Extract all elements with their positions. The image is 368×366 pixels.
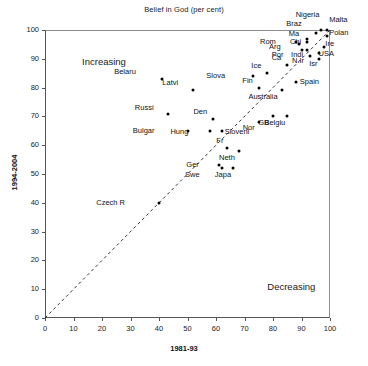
data-point — [280, 89, 283, 92]
data-point — [232, 167, 235, 170]
y-tick-label: 90 — [15, 54, 39, 63]
data-point — [266, 72, 269, 75]
point-label: Ire — [325, 40, 334, 48]
point-label: Malta — [329, 16, 347, 24]
data-point — [226, 147, 229, 150]
y-tick-label: 30 — [15, 227, 39, 236]
data-point — [192, 89, 195, 92]
point-label: Australia — [248, 93, 277, 101]
y-tick-mark — [42, 203, 45, 204]
point-label: Fin — [242, 77, 252, 85]
point-label: Polan — [329, 29, 348, 37]
point-label: Braz — [286, 20, 301, 28]
y-tick-label: 40 — [15, 198, 39, 207]
y-tick-mark — [42, 318, 45, 319]
point-label: N.Ir — [292, 57, 304, 65]
x-tick-label: 80 — [258, 324, 288, 333]
x-tick-mark — [330, 318, 331, 321]
point-label: Nigeria — [296, 11, 320, 19]
y-tick-label: 50 — [15, 169, 39, 178]
y-tick-mark — [42, 232, 45, 233]
point-label: Den — [193, 108, 207, 116]
y-tick-label: 70 — [15, 111, 39, 120]
point-label: Nor — [243, 124, 255, 132]
point-label: Latvi — [162, 79, 178, 87]
data-point — [309, 54, 312, 57]
x-tick-label: 40 — [144, 324, 174, 333]
y-tick-mark — [42, 59, 45, 60]
y-tick-mark — [42, 30, 45, 31]
x-tick-mark — [45, 318, 46, 321]
x-tick-label: 70 — [230, 324, 260, 333]
x-tick-mark — [131, 318, 132, 321]
point-label: Isr — [309, 60, 317, 68]
x-tick-label: 0 — [30, 324, 60, 333]
x-tick-label: 50 — [173, 324, 203, 333]
point-label: Ger — [186, 161, 199, 169]
x-tick-mark — [159, 318, 160, 321]
x-tick-mark — [273, 318, 274, 321]
y-tick-mark — [42, 174, 45, 175]
y-tick-label: 0 — [15, 313, 39, 322]
data-point — [294, 80, 297, 83]
scatter-chart: Belief in God (per cent) BelaruLatviRuss… — [0, 0, 368, 366]
point-label: Russi — [135, 104, 154, 112]
point-label: Slova — [206, 72, 225, 80]
point-label: Ice — [251, 62, 261, 70]
y-tick-mark — [42, 88, 45, 89]
point-label: Spain — [300, 78, 319, 86]
y-tick-label: 60 — [15, 140, 39, 149]
x-axis-title: 1981-93 — [0, 344, 368, 353]
x-tick-label: 60 — [201, 324, 231, 333]
point-label: Hung — [170, 128, 188, 136]
x-tick-label: 10 — [59, 324, 89, 333]
point-label: Bulgar — [133, 127, 155, 135]
x-tick-label: 20 — [87, 324, 117, 333]
point-label: Fr — [216, 137, 223, 145]
x-tick-mark — [74, 318, 75, 321]
y-tick-label: 100 — [15, 25, 39, 34]
y-tick-mark — [42, 260, 45, 261]
data-point — [257, 86, 260, 89]
point-label: Neth — [219, 154, 235, 162]
y-tick-label: 80 — [15, 83, 39, 92]
point-label: Belgiu — [264, 119, 285, 127]
x-tick-mark — [302, 318, 303, 321]
y-tick-label: 10 — [15, 284, 39, 293]
x-tick-label: 90 — [287, 324, 317, 333]
point-label: Por — [272, 51, 284, 59]
y-tick-mark — [42, 116, 45, 117]
x-tick-mark — [102, 318, 103, 321]
data-point — [320, 29, 323, 32]
point-label: Chi — [290, 38, 301, 46]
x-tick-label: 100 — [315, 324, 345, 333]
x-tick-mark — [216, 318, 217, 321]
point-label: Czech R — [96, 199, 125, 207]
data-point — [306, 37, 309, 40]
data-point — [166, 112, 169, 115]
data-point — [314, 31, 317, 34]
point-label: Ma — [289, 30, 299, 38]
data-point — [209, 129, 212, 132]
data-point — [220, 129, 223, 132]
point-label: Belaru — [114, 68, 136, 76]
data-point — [212, 118, 215, 121]
point-label: Japa — [215, 171, 231, 179]
annotation-increasing: Increasing — [82, 56, 126, 67]
data-point — [306, 49, 309, 52]
point-label: USA — [319, 50, 334, 58]
y-tick-mark — [42, 289, 45, 290]
data-point — [286, 115, 289, 118]
data-point — [286, 63, 289, 66]
x-tick-label: 30 — [116, 324, 146, 333]
y-tick-mark — [42, 145, 45, 146]
data-point — [306, 40, 309, 43]
data-point — [237, 149, 240, 152]
y-axis-title: 1994-2004 — [10, 133, 19, 213]
annotation-decreasing: Decreasing — [267, 281, 315, 292]
x-tick-mark — [245, 318, 246, 321]
data-points-layer: BelaruLatviRussiBulgarSlovaIceFinCaSpain… — [45, 30, 330, 318]
point-label: Swe — [185, 171, 200, 179]
x-tick-mark — [188, 318, 189, 321]
y-tick-label: 20 — [15, 255, 39, 264]
